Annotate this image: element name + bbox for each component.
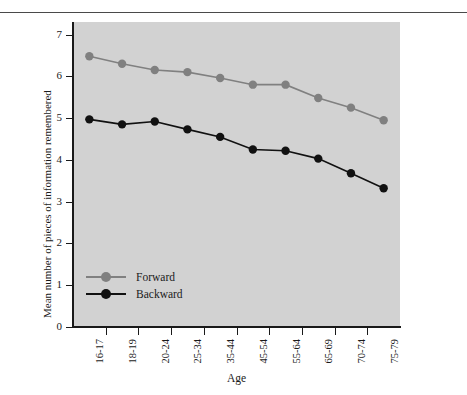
data-point-backward-55-64 xyxy=(281,146,289,154)
data-point-forward-45-54 xyxy=(249,80,257,88)
data-point-backward-20-24 xyxy=(151,117,159,125)
data-point-forward-18-19 xyxy=(118,60,126,68)
data-point-backward-18-19 xyxy=(118,120,126,128)
data-point-forward-35-44 xyxy=(216,74,224,82)
y-axis-title: Mean number of pieces of information rem… xyxy=(41,18,53,318)
series-line-forward xyxy=(89,56,383,120)
data-point-forward-25-34 xyxy=(183,68,191,76)
data-point-backward-25-34 xyxy=(183,125,191,133)
legend-marker-backward xyxy=(101,289,111,299)
series-line-backward xyxy=(89,119,383,188)
legend-label-forward: Forward xyxy=(136,269,175,285)
legend-item-backward: Backward xyxy=(86,286,206,303)
data-point-backward-75-79 xyxy=(379,184,387,192)
data-point-backward-70-74 xyxy=(347,169,355,177)
legend-item-forward: Forward xyxy=(86,269,206,286)
data-point-forward-65-69 xyxy=(314,94,322,102)
data-point-backward-35-44 xyxy=(216,133,224,141)
legend-label-backward: Backward xyxy=(136,286,183,302)
data-point-backward-45-54 xyxy=(249,145,257,153)
figure-container: 01234567 16-1718-1920-2425-3435-4445-545… xyxy=(0,0,467,395)
data-point-forward-75-79 xyxy=(379,116,387,124)
data-point-forward-70-74 xyxy=(347,103,355,111)
data-point-forward-55-64 xyxy=(281,80,289,88)
data-point-forward-16-17 xyxy=(85,52,93,60)
legend-marker-forward xyxy=(101,272,111,282)
chart-legend: Forward Backward xyxy=(86,269,206,303)
data-point-backward-16-17 xyxy=(85,115,93,123)
x-axis-title: Age xyxy=(73,372,400,384)
data-point-backward-65-69 xyxy=(314,154,322,162)
data-point-forward-20-24 xyxy=(151,66,159,74)
series-plot xyxy=(0,0,467,395)
